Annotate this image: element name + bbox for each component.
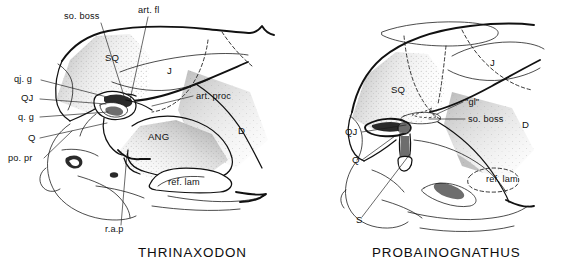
label-ANG: ANG	[148, 131, 169, 142]
label-so-boss-right: so. boss	[468, 114, 504, 124]
label-ref-lam: ref. lam	[168, 177, 200, 187]
label-QJ-right: QJ	[345, 126, 358, 137]
taxon-name-probainognathus: PROBAINOGNATHUS	[372, 245, 521, 260]
label-D: D	[238, 125, 245, 136]
label-J: J	[167, 65, 172, 76]
label-art-proc: art. proc	[196, 91, 231, 101]
label-po-pr: po. pr	[8, 153, 32, 163]
label-D-right: D	[522, 119, 529, 130]
label-QJ: QJ	[21, 92, 34, 103]
label-SQ-right: SQ	[391, 84, 405, 95]
label-art-fl: art. fl	[138, 5, 159, 15]
label-Q-right: Q	[352, 154, 360, 165]
label-gl-right: "gl"	[465, 97, 479, 107]
label-so-boss: so. boss	[64, 11, 100, 21]
skull-comparison-figure: so. boss art. fl qj. g QJ q. g Q po. pr …	[0, 0, 576, 273]
label-Q: Q	[28, 132, 36, 143]
label-SQ: SQ	[105, 52, 119, 63]
label-ref-lam-right: ref. lam	[486, 174, 518, 184]
quadrate-shaft-fill	[400, 136, 410, 158]
foramen-dark	[110, 172, 118, 178]
label-r-a-p: r.a.p	[105, 224, 124, 234]
label-S-right: S	[356, 214, 363, 225]
label-J-right: J	[490, 57, 495, 68]
taxon-name-thrinaxodon: THRINAXODON	[138, 245, 247, 260]
label-qj-g: qj. g	[14, 74, 32, 84]
label-q-g: q. g	[18, 112, 34, 122]
